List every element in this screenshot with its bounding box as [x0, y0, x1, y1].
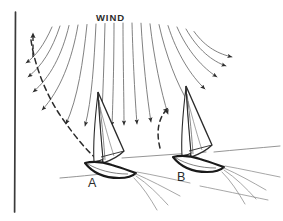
- sailboat-a: [85, 92, 136, 178]
- shoreline-vertical-line: [15, 12, 16, 212]
- dashed-lift-arrow-boat-b: [158, 108, 168, 148]
- sailboat-b: [173, 86, 224, 172]
- wind-label: WIND: [96, 12, 125, 23]
- boat-a-label: A: [88, 176, 97, 190]
- wind-shadow-diagram: WIND A B: [0, 0, 283, 221]
- wind-shadow-dashed-boundary: [31, 40, 99, 161]
- boat-b-label: B: [177, 170, 185, 184]
- diagram-canvas: WIND A B: [0, 0, 283, 221]
